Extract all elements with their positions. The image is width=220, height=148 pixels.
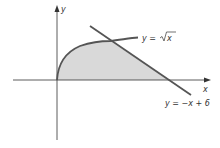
y-axis-arrow-icon [55, 5, 60, 12]
sqrt-label-prefix: y = [141, 34, 156, 43]
diagram-figure: y x y = x y = −x + 6 [0, 0, 220, 148]
line-label: y = −x + 6 [164, 99, 210, 108]
svg-text:y =: y = [141, 34, 156, 43]
x-axis-label: x [202, 85, 208, 94]
sqrt-label-func: x [166, 34, 172, 43]
x-axis-arrow-icon [204, 78, 211, 83]
shaded-region [57, 41, 170, 80]
sqrt-curve-label: y = x [141, 32, 176, 43]
y-axis-label: y [60, 5, 66, 14]
